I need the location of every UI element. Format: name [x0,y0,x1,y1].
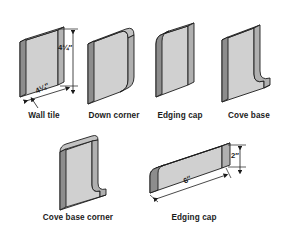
shape-down-corner [88,28,134,104]
edging-cap-bar-front-face [150,146,222,193]
shape-cove-base-corner [60,136,106,211]
caption-edging-cap-top: Edging cap [148,112,212,120]
edging-cap-bar-height-label: 2″ [231,152,239,160]
caption-down-corner: Down corner [78,112,150,120]
wall-tile-height-label: 4¼″ [58,44,72,52]
shape-edging-cap-bar [150,143,230,193]
caption-cove-base: Cove base [214,112,284,120]
edging-cap-top-back-edge [188,23,194,85]
shape-cove-base [222,25,270,102]
cove-base-corner-back-edge [92,140,106,197]
edging-cap-bar-length-ext-right [226,168,231,178]
wall-tile-leader-arrow [32,99,38,108]
caption-wall-tile: Wall tile [0,112,88,120]
edging-cap-bar-back-edge [222,143,230,168]
cove-base-corner-side-face [60,149,66,210]
cove-base-side-face [222,37,228,102]
cove-base-back-edge [254,25,270,88]
shape-edging-cap-top [156,23,194,97]
wall-tile-side-face [20,39,26,97]
caption-cove-base-corner: Cove base corner [18,214,138,222]
caption-edging-cap-bar: Edging cap [146,214,242,222]
wall-tile-back-edge [58,27,64,85]
down-corner-side-face [88,41,94,104]
